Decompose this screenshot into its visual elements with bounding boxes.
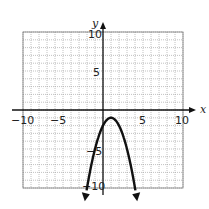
- x-axis-arrow-icon: [189, 107, 196, 113]
- x-axis-label: x: [200, 103, 207, 116]
- y-tick-5: 5: [93, 66, 100, 79]
- x-tick-neg10: −10: [11, 114, 34, 127]
- x-tick-5: 5: [139, 114, 146, 127]
- x-tick-neg5: −5: [50, 114, 66, 127]
- y-tick-10: 10: [88, 28, 102, 41]
- graph: x y −10 −5 5 10 10 5 −5 −10: [0, 0, 209, 209]
- curve-arrow-right-icon: [132, 192, 140, 201]
- y-tick-neg10: −10: [82, 180, 105, 193]
- x-tick-10: 10: [175, 114, 189, 127]
- curve-arrow-left-icon: [82, 192, 90, 201]
